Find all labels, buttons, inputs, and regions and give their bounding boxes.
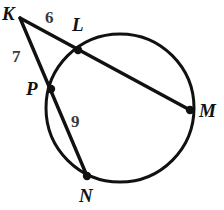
point-label-l: L (72, 15, 84, 34)
point-dot-n (83, 172, 91, 180)
point-dot-p (47, 85, 55, 93)
point-label-k: K (2, 4, 15, 23)
geometry-canvas (0, 0, 224, 210)
point-label-p: P (26, 79, 38, 98)
point-dot-l (74, 46, 82, 54)
measure-label-kp: 7 (12, 48, 21, 65)
geometry-figure: K L M P N 6 7 9 (0, 0, 224, 210)
measure-label-kl: 6 (45, 9, 54, 26)
point-label-n: N (79, 186, 93, 205)
diagram-strokes (20, 18, 194, 182)
measure-label-pn: 9 (71, 113, 80, 130)
point-dot-m (186, 106, 194, 114)
main-circle (46, 34, 194, 182)
point-label-m: M (199, 101, 216, 120)
